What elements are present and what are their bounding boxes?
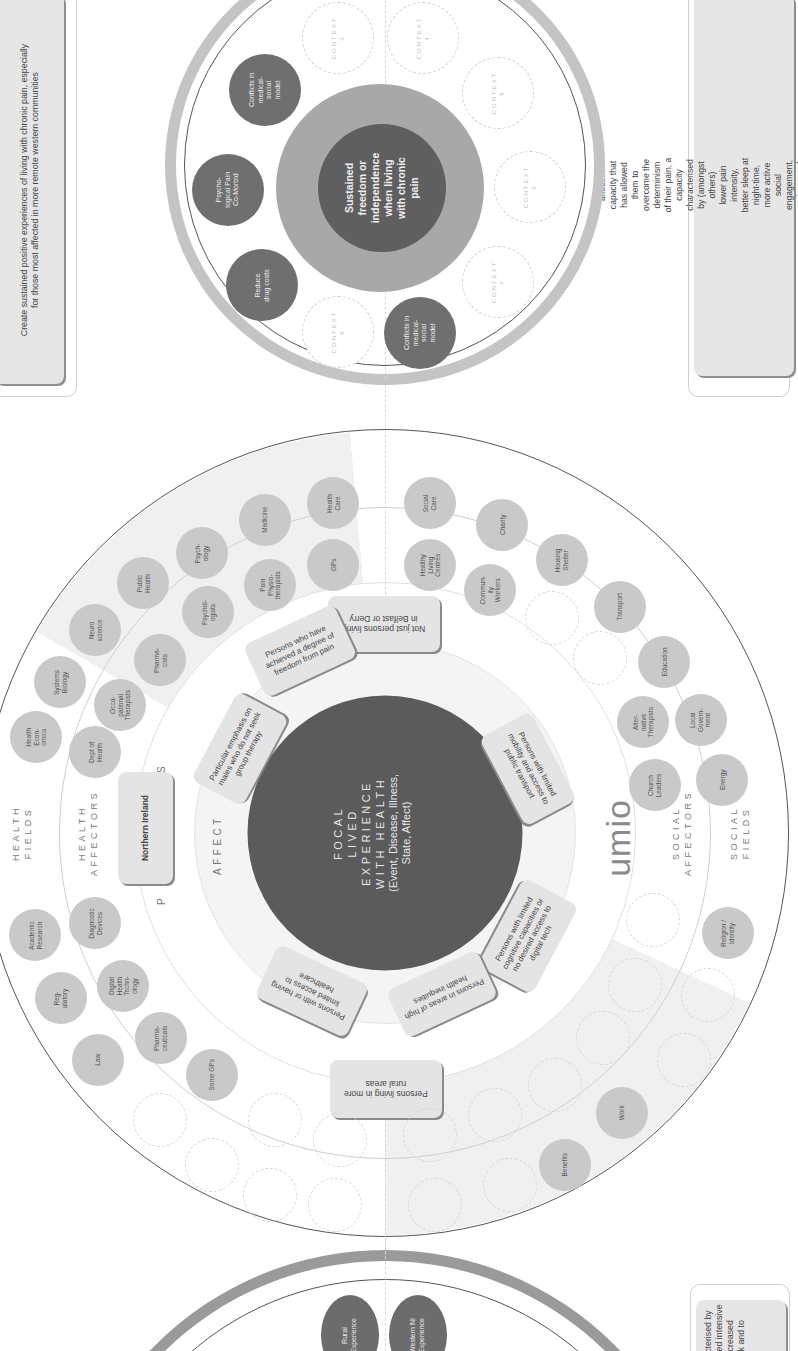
field-health-care: Health Care <box>307 477 359 529</box>
health-affectors-label: HEALTH AFFECTORS <box>76 790 100 876</box>
field-health-economics: Health Econ- omics <box>10 711 62 763</box>
affector-psychologists: Psychol- ogists <box>182 586 234 638</box>
affector-pain-physiotherapists: Pain Physio- therapists <box>244 559 296 611</box>
field-local-government: Local Govern- ment <box>675 694 727 746</box>
affector-alternative-therapists: Alter- native Therapists <box>617 696 669 748</box>
top-node-conflicts-2: Conflicts in medical- social model <box>384 297 456 369</box>
empty-slot <box>403 1108 457 1162</box>
field-social-care: Social Care <box>404 477 456 529</box>
field-benefits: Benefits <box>539 1139 591 1191</box>
affector-dept-of-health: Dept of Health <box>69 726 121 778</box>
outcome-box-text: Well-developed affective capacity that h… <box>575 158 798 212</box>
empty-slot <box>483 1158 537 1212</box>
affector-some-gps: Some GPs <box>186 1049 238 1101</box>
affector-diagnostic-devices: Diagnostic Devices <box>69 897 121 949</box>
goal-center: Sustained freedom or independence when l… <box>318 124 446 252</box>
context-6: CONTEXT 6 <box>494 151 566 223</box>
field-systems-biology: Systems Biology <box>34 656 86 708</box>
affector-healthy-living-centres: Healthy Living Centres <box>404 539 456 591</box>
field-energy: Energy <box>696 754 748 806</box>
empty-slot <box>185 1138 239 1192</box>
social-fields-label: SOCIAL FIELDS <box>728 806 752 860</box>
affector-community-workers: Commun- ity Workers <box>464 564 516 616</box>
empty-slot <box>525 591 579 645</box>
affector-pharmaceuticals: Pharma- ceuticals <box>135 1012 187 1064</box>
affector-gps: GPs <box>307 539 359 591</box>
top-node-psychological-pain: Psycho- logical Pain Co-Morbid <box>192 154 264 226</box>
empty-slot <box>576 1011 630 1065</box>
empty-slot <box>657 1033 711 1087</box>
field-housing-shelter: Housing Shelter <box>536 534 588 586</box>
affector-pharmacists: Pharma- cists <box>134 634 186 686</box>
goal-box-text: Create sustained positive experiences of… <box>19 44 41 336</box>
empty-slot <box>608 958 662 1012</box>
affect-label: AFFECT <box>212 815 224 875</box>
top-node-conflicts-1: Conflicts in medical- social model <box>229 54 301 126</box>
empty-slot <box>243 1168 297 1222</box>
field-psychology: Psych- ology <box>176 527 228 579</box>
field-religion-identity: Religion / Identity <box>702 907 754 959</box>
field-regulatory: Reg- ulatory <box>35 972 87 1024</box>
empty-slot <box>626 893 680 947</box>
affector-church-leaders: Church Leaders <box>629 759 681 811</box>
empty-slot <box>313 1113 367 1167</box>
field-work: Work <box>596 1087 648 1139</box>
context-5: CONTEXT 5 <box>462 57 534 129</box>
field-public-health: Public Health <box>117 557 169 609</box>
field-law: Law <box>72 1034 124 1086</box>
empty-slot <box>468 1088 522 1142</box>
empty-slot <box>248 1093 302 1147</box>
empty-slot <box>133 1093 187 1147</box>
empty-slot <box>573 631 627 685</box>
card-northern-ireland: Northern Ireland <box>118 772 173 884</box>
umio-logo: umio <box>599 799 638 877</box>
bottom-circle-axis <box>385 1236 386 1351</box>
empty-slot <box>408 1178 462 1232</box>
field-academic-research: Academic Research <box>9 909 61 961</box>
field-education: Education <box>638 636 690 688</box>
context-4: CONTEXT 4 <box>387 2 459 74</box>
context-3: CONTEXT 3 <box>302 2 374 74</box>
empty-slot <box>308 1178 362 1232</box>
main-axis-top <box>385 430 386 600</box>
health-fields-label: HEALTH FIELDS <box>10 805 34 861</box>
empty-slot <box>681 968 735 1022</box>
p-letter: P <box>156 895 168 905</box>
context-8: CONTEXT 8 <box>302 296 374 368</box>
focal-title: FOCAL LIVED EXPERIENCE WITH HEALTH (Even… <box>331 774 413 892</box>
context-7: CONTEXT 7 <box>462 246 534 318</box>
field-medicine: Medicine <box>239 494 291 546</box>
empty-slot <box>528 1058 582 1112</box>
top-node-reduce-drug-costs: Reduce drug costs <box>226 249 298 321</box>
field-transport: Transport <box>594 581 646 633</box>
affector-digital-health-technology: Digital Health Techn- ology <box>97 960 149 1012</box>
field-neuroscience: Neuro science <box>69 604 121 656</box>
affector-occupational-therapists: Occu- pational Therapists <box>94 679 146 731</box>
bottom-box-text: aracterised by posed intensive d increas… <box>703 1304 747 1351</box>
goal-center-text: Sustained freedom or independence when l… <box>343 153 421 224</box>
field-charity: Charity <box>476 499 528 551</box>
